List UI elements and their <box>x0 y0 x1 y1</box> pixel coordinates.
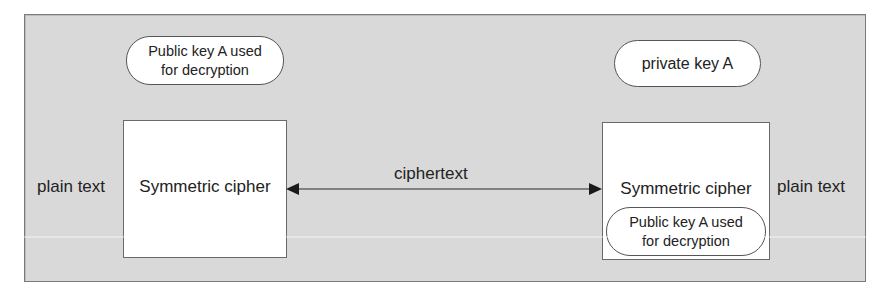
right-inner-key-pill: Public key A used for decryption <box>606 207 766 256</box>
right-box-label: Symmetric cipher <box>603 179 769 199</box>
left-key-pill-line1: Public key A used <box>148 42 262 61</box>
left-key-pill: Public key A used for decryption <box>126 36 284 85</box>
right-symmetric-cipher-box: Symmetric cipher Public key A used for d… <box>602 122 770 260</box>
right-inner-pill-line1: Public key A used <box>629 213 743 232</box>
double-arrow-icon <box>286 181 602 197</box>
right-key-pill-text: private key A <box>642 54 734 73</box>
right-key-pill: private key A <box>614 40 761 87</box>
right-inner-pill-line2: for decryption <box>629 232 743 251</box>
right-plain-text-label: plain text <box>777 177 845 197</box>
diagram-canvas: Public key A used for decryption private… <box>0 0 890 299</box>
left-symmetric-cipher-box: Symmetric cipher <box>123 120 287 258</box>
left-box-label: Symmetric cipher <box>124 177 286 197</box>
left-key-pill-line2: for decryption <box>148 61 262 80</box>
left-plain-text-label: plain text <box>37 177 105 197</box>
